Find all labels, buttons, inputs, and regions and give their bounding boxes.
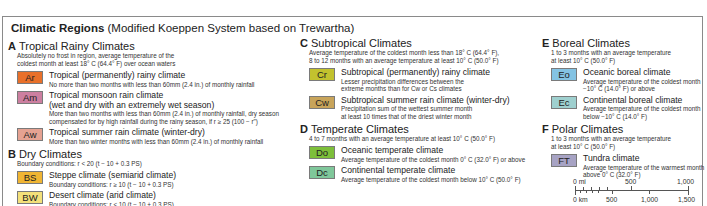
group-desc: Average temperature of the coldest month… <box>309 49 540 57</box>
swatch-ar: Ar <box>17 71 43 84</box>
group-desc: at least 10° C (50.0° F) <box>551 143 702 151</box>
scale-tick <box>592 190 593 193</box>
column-a-b: ATropical Rainy Climates Absolutely no f… <box>8 40 298 206</box>
group-name: Polar Climates <box>552 123 624 135</box>
group-b: BDry Climates Boundary conditions: r < 2… <box>8 148 298 206</box>
swatch-aw: Aw <box>17 128 43 141</box>
scale-tick <box>612 190 613 194</box>
item-desc: compensated for by high rainfall during … <box>49 118 298 126</box>
scale-tick <box>688 186 689 195</box>
swatch-eo: Eo <box>551 68 577 81</box>
group-desc: Absolutely no frost in region, average t… <box>17 52 298 60</box>
scale-label-mi: 1,000 <box>677 178 694 185</box>
scale-tick <box>599 187 600 190</box>
item-desc: More than two winter months with less th… <box>49 138 298 146</box>
item-desc: Average temperature of the coldest month… <box>341 176 540 184</box>
swatch-bw: BW <box>17 191 43 204</box>
legend-title-subtitle: (Modified Koeppen System based on Trewar… <box>108 22 355 34</box>
swatch-cr: Cr <box>309 68 335 81</box>
scale-label-km: 1,500 <box>678 196 695 203</box>
item-name: Continental temperate climate <box>341 166 540 176</box>
scale-label-km: 1,000 <box>641 196 658 203</box>
group-e: EBoreal Climates 1 to 3 months with an a… <box>542 37 702 120</box>
legend-title-bold: Climatic Regions <box>11 22 104 34</box>
swatch-cw: Cw <box>309 96 335 109</box>
group-desc: 1 to 3 months with an average temperatur… <box>551 135 702 143</box>
group-name: Dry Climates <box>19 148 82 160</box>
legend-item-dc: Dc Continental temperate climate Average… <box>309 166 540 183</box>
item-desc: Average temperature of the warmest month <box>583 164 702 172</box>
scale-label-km: 500 <box>606 196 617 203</box>
group-letter: F <box>542 123 549 135</box>
group-letter: B <box>8 148 16 160</box>
group-f: FPolar Climates 1 to 3 months with an av… <box>542 123 702 179</box>
item-desc: Average temperature of the coldest month… <box>341 156 540 164</box>
legend-title: Climatic Regions (Modified Koeppen Syste… <box>11 22 354 34</box>
item-name: Oceanic temperate climate <box>341 146 540 156</box>
group-letter: E <box>542 37 549 49</box>
group-a: ATropical Rainy Climates Absolutely no f… <box>8 40 298 145</box>
group-name: Temperate Climates <box>311 123 409 135</box>
legend-item-am: Am Tropical monsoon rain climate (wet an… <box>17 91 298 125</box>
item-desc: extreme months than for Cw or Cs climate… <box>341 85 540 93</box>
item-desc: −10° C (14.0° F) or above <box>583 85 702 93</box>
item-name-cont: (wet and dry with an extremely wet seaso… <box>49 101 298 111</box>
scale-bar: 0 mi 500 1,000 0 km 500 1,000 1,500 <box>573 177 703 206</box>
group-desc: 8 to 12 months with an average temperatu… <box>309 57 540 65</box>
group-name: Tropical Rainy Climates <box>19 40 135 52</box>
item-name: Tropical summer rain climate (winter-dry… <box>49 128 298 138</box>
group-desc: at least 10° C (50.0° F) <box>551 57 702 65</box>
scale-tick <box>607 187 608 190</box>
item-name: Desert climate (arid climate) <box>49 191 298 201</box>
legend-item-bs: BS Steppe climate (semiarid climate) Bou… <box>17 171 298 188</box>
swatch-do: Do <box>309 146 335 159</box>
item-desc: Average temperature of the coldest month <box>583 78 702 86</box>
group-letter: D <box>300 123 308 135</box>
legend-item-cr: Cr Subtropical (permanently) rainy clima… <box>309 68 540 93</box>
group-desc: 4 to 7 months with an average temperatur… <box>309 135 540 143</box>
item-desc: Boundary conditions: r < 10 (t − 10 + 0.… <box>49 201 298 206</box>
item-name: Subtropical (permanently) rainy climate <box>341 68 540 78</box>
item-name: Subtropical summer rain climate (winter-… <box>341 96 540 106</box>
swatch-ec: Ec <box>551 96 577 109</box>
item-name: Continental boreal climate <box>583 96 702 106</box>
legend-item-aw: Aw Tropical summer rain climate (winter-… <box>17 128 298 145</box>
scale-label-mi: 500 <box>625 178 636 185</box>
scale-tick <box>631 186 632 190</box>
swatch-ft: FT <box>551 154 577 167</box>
group-desc: 1 to 3 months with an average temperatur… <box>551 49 702 57</box>
scale-label-km: 0 km <box>573 196 588 203</box>
group-name: Boreal Climates <box>552 37 630 49</box>
column-c-d: CSubtropical Climates Average temperatur… <box>300 37 540 184</box>
scale-tick <box>649 190 650 194</box>
scale-tick <box>598 190 599 193</box>
item-desc: Lesser precipitation differences between… <box>341 78 540 86</box>
scale-tick <box>580 190 581 193</box>
legend-item-ft: FT Tundra climate Average temperature of… <box>551 154 702 179</box>
group-letter: C <box>300 37 308 49</box>
item-desc: Boundary conditions: r ≥ 10 (t − 10 + 0.… <box>49 181 298 189</box>
item-name: Oceanic boreal climate <box>583 68 702 78</box>
item-desc: Precipitation sum of the wettest summer … <box>341 105 540 113</box>
legend-item-do: Do Oceanic temperate climate Average tem… <box>309 146 540 163</box>
group-name: Subtropical Climates <box>311 37 412 49</box>
item-desc: below −10° C (14.0° F) <box>583 113 702 121</box>
group-c: CSubtropical Climates Average temperatur… <box>300 37 540 120</box>
column-e-f: EBoreal Climates 1 to 3 months with an a… <box>542 37 702 179</box>
item-name: Tropical (permanently) rainy climate <box>49 71 298 81</box>
legend-item-eo: Eo Oceanic boreal climate Average temper… <box>551 68 702 93</box>
swatch-dc: Dc <box>309 166 335 179</box>
scale-tick <box>583 187 584 190</box>
group-desc: Boundary conditions: r < 20 (t − 10 + 0.… <box>17 160 298 168</box>
item-name: Steppe climate (semiarid climate) <box>49 171 298 181</box>
legend-item-cw: Cw Subtropical summer rain climate (wint… <box>309 96 540 121</box>
legend-item-ec: Ec Continental boreal climate Average te… <box>551 96 702 121</box>
group-d: DTemperate Climates 4 to 7 months with a… <box>300 123 540 183</box>
item-desc: No more than two months with less than 6… <box>49 81 298 89</box>
climate-legend-panel: Climatic Regions (Modified Koeppen Syste… <box>2 16 703 206</box>
item-desc: More than two months with less than 60mm… <box>49 110 298 118</box>
item-desc: Average temperature of the coldest month <box>583 105 702 113</box>
scale-tick <box>586 190 587 193</box>
legend-item-bw: BW Desert climate (arid climate) Boundar… <box>17 191 298 206</box>
scale-tick <box>575 186 576 195</box>
